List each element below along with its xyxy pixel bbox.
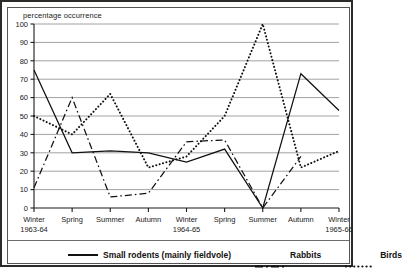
y-axis-tick-label: 80 [20, 57, 28, 66]
x-axis-tick-label: Spring [214, 215, 236, 224]
legend-dashdot-glyph-icon [255, 265, 285, 268]
data-series-line-2 [34, 24, 339, 168]
legend-dotted-glyph-icon [345, 265, 375, 268]
chart-legend: Small rodents (mainly fieldvole) Rabbits… [8, 246, 349, 264]
x-axis-tick-label: Spring [61, 215, 83, 224]
x-axis-tick-label: Winter [23, 215, 45, 224]
y-axis-tick-label: 40 [20, 130, 28, 139]
x-axis-year-labels-group: 1963-641964-651965-66 [20, 225, 353, 234]
legend-label-rabbits: Rabbits [290, 250, 321, 260]
legend-label-small-rodents: Small rodents (mainly fieldvole) [103, 250, 231, 260]
x-axis-tick-label: Summer [96, 215, 125, 224]
y-axis-tick-label: 70 [20, 75, 28, 84]
x-axis-tick-label: Autumn [135, 215, 161, 224]
data-series-line-0 [34, 70, 339, 208]
y-axis-tick-label: 60 [20, 93, 28, 102]
legend-label-birds: Birds [380, 250, 402, 260]
plot-area: 0102030405060708090100 WinterSpringSumme… [2, 2, 355, 269]
legend-swatch-dotted-icon [345, 254, 375, 256]
legend-swatch-dashdot-icon [255, 254, 285, 256]
line-chart-svg: 0102030405060708090100 WinterSpringSumme… [2, 2, 355, 269]
y-axis-labels-group: 0102030405060708090100 [15, 20, 28, 213]
x-axis-tick-label: Winter [328, 215, 350, 224]
x-axis-year-label: 1963-64 [20, 225, 48, 234]
x-axis-tick-label: Autumn [288, 215, 314, 224]
legend-divider [8, 240, 349, 241]
x-axis-tick-label: Summer [249, 215, 278, 224]
y-axis-tick-label: 90 [20, 38, 28, 47]
y-axis-tick-label: 50 [20, 112, 28, 121]
legend-item-rabbits: Rabbits [255, 250, 321, 260]
y-axis-tick-label: 0 [24, 204, 28, 213]
y-axis-tick-label: 30 [20, 149, 28, 158]
legend-item-birds: Birds [345, 250, 402, 260]
legend-item-small-rodents: Small rodents (mainly fieldvole) [68, 250, 231, 260]
x-axis-tick-label: Winter [176, 215, 198, 224]
gridlines-group [34, 24, 339, 190]
x-axis-year-label: 1964-65 [173, 225, 201, 234]
x-axis-ticks-group [34, 208, 339, 212]
y-axis-tick-label: 20 [20, 167, 28, 176]
y-axis-tick-label: 10 [20, 185, 28, 194]
x-axis-labels-group: WinterSpringSummerAutumnWinterSpringSumm… [23, 215, 350, 224]
x-axis-year-label: 1965-66 [325, 225, 353, 234]
y-axis-tick-label: 100 [15, 20, 28, 29]
legend-swatch-solid-icon [68, 254, 98, 256]
